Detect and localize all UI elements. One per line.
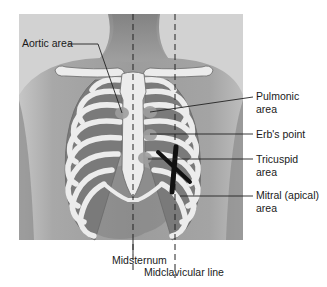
label-midclavicular-line: Midclavicular line <box>144 266 224 279</box>
label-mitral-line1: Mitral (apical) <box>256 189 319 202</box>
label-aortic-area: Aortic area <box>22 37 73 50</box>
label-erbs-point: Erb's point <box>256 128 305 141</box>
neck <box>100 14 168 62</box>
label-tricuspid-line1: Tricuspid <box>256 153 298 166</box>
label-pulmonic-line2: area <box>256 103 277 116</box>
label-pulmonic-line1: Pulmonic <box>256 90 299 103</box>
auscultation-diagram: Aortic area Pulmonic area Erb's point Tr… <box>0 0 327 287</box>
label-mitral-line2: area <box>256 202 277 215</box>
label-tricuspid-line2: area <box>256 166 277 179</box>
